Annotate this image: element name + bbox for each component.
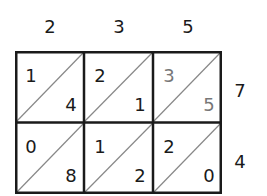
cell-r2c1-ones: 8: [63, 167, 79, 185]
cell-r1c1-ones: 4: [63, 96, 79, 114]
cell-r1c2-ones: 1: [132, 96, 148, 114]
cell-r2c2-ones: 2: [132, 167, 148, 185]
top-factor-digit-3: 5: [178, 18, 198, 36]
top-factor-digit-2: 3: [109, 18, 129, 36]
side-factor-digit-2: 4: [230, 153, 250, 171]
cell-r1c3-tens: 3: [161, 67, 177, 85]
grid-lines: [15, 51, 222, 194]
lattice-grid: 1 4 2 1 3 5 0 8 1 2 2 0: [15, 51, 222, 194]
cell-r1c3-ones: 5: [201, 96, 217, 114]
cell-r2c2-tens: 1: [92, 138, 108, 156]
cell-r1c2-tens: 2: [92, 67, 108, 85]
side-factor-digit-1: 7: [230, 82, 250, 100]
cell-r2c3-tens: 2: [161, 138, 177, 156]
cell-r2c3-ones: 0: [201, 167, 217, 185]
cell-r2c1-tens: 0: [23, 138, 39, 156]
cell-r1c1-tens: 1: [23, 67, 39, 85]
top-factor-digit-1: 2: [40, 18, 60, 36]
